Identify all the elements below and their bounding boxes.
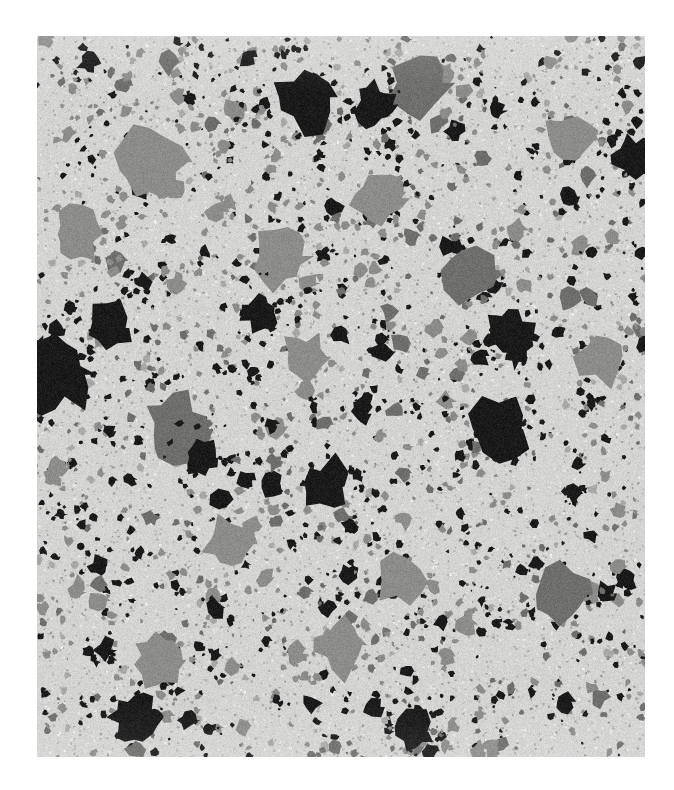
micrograph-figure [37, 36, 645, 757]
page-canvas: Backscattered electron micrograph of a p… [0, 0, 674, 790]
micrograph-image [37, 36, 645, 757]
